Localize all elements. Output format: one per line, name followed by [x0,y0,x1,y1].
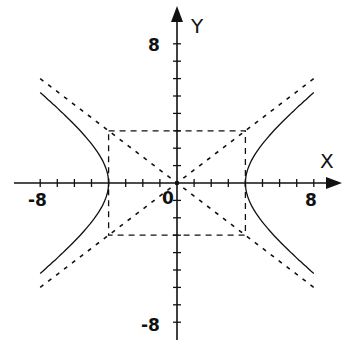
x-axis-label: X [320,151,334,171]
y-axis-label: Y [191,16,203,36]
x-max-tick-label: 8 [305,192,317,209]
y-min-tick-label: -8 [141,317,160,334]
x-min-tick-label: -8 [28,192,47,209]
origin-point [175,181,179,185]
origin-label: 0 [162,190,174,207]
x-axis-arrowhead [326,177,342,189]
y-axis-arrowhead [171,6,183,22]
coordinate-plane [0,0,357,357]
y-max-tick-label: 8 [148,37,160,54]
hyperbola-diagram: Y X 8 -8 -8 8 0 [0,0,357,357]
